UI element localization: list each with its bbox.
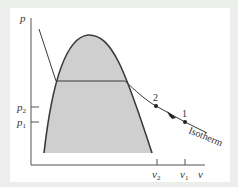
x-axis-label: v: [198, 168, 203, 180]
v2-label: v2: [152, 168, 161, 182]
saturation-dome-fill: [44, 35, 152, 153]
state-point-2: [154, 104, 158, 108]
point-label-2: 2: [153, 92, 158, 103]
point-label-1: 1: [182, 108, 187, 119]
pv-diagram: 2 1 p v p2 p1 v2 v1 Isotherm: [0, 0, 238, 187]
p1-label: p1: [16, 116, 27, 130]
v1-label: v1: [180, 168, 189, 182]
y-axis-label: p: [19, 12, 26, 24]
p2-label: p2: [16, 101, 27, 115]
isotherm-label: Isotherm: [187, 125, 224, 149]
state-point-1: [183, 120, 187, 124]
